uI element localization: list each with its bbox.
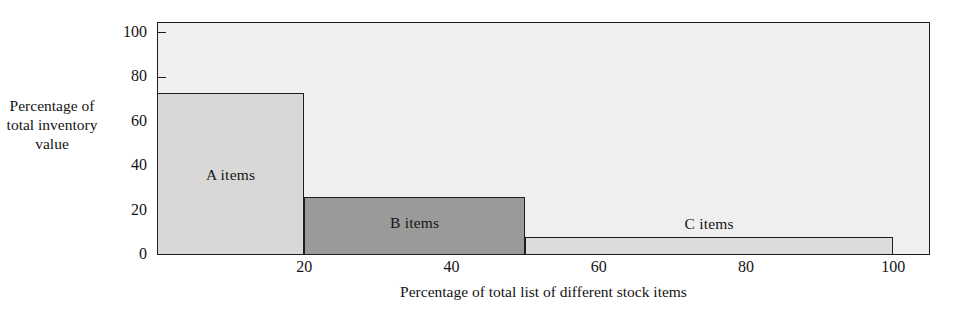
clipped-header-text <box>10 0 530 3</box>
y-tick-label-40: 40 <box>103 157 147 173</box>
bar-label-b-items: B items <box>355 214 475 232</box>
y-tick-label-80: 80 <box>103 68 147 84</box>
y-tick-80 <box>157 77 166 78</box>
y-tick-label-60: 60 <box>103 113 147 129</box>
y-tick-label-0: 0 <box>103 246 147 262</box>
x-tick-label-80: 80 <box>721 258 771 276</box>
y-axis-title: Percentage of total inventory value <box>4 96 100 153</box>
x-tick-label-100: 100 <box>868 258 918 276</box>
x-tick-label-40: 40 <box>426 258 476 276</box>
y-tick-label-20: 20 <box>103 202 147 218</box>
x-tick-label-60: 60 <box>574 258 624 276</box>
y-tick-100 <box>157 32 166 33</box>
x-tick-label-20: 20 <box>279 258 329 276</box>
y-tick-label-100: 100 <box>103 24 147 40</box>
bar-c-items <box>525 237 893 255</box>
bar-label-c-items: C items <box>649 215 769 233</box>
bar-label-a-items: A items <box>171 166 291 184</box>
x-axis-title: Percentage of total list of different st… <box>157 283 930 301</box>
abc-analysis-chart: 020406080100 20406080100 A itemsB itemsC… <box>0 0 954 322</box>
